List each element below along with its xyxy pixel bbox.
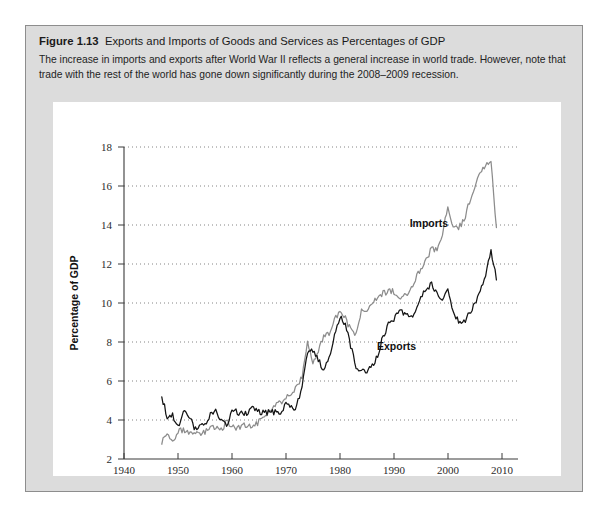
line-chart: 18 16 14 12 10 8 6 4 2 Percentage of GDP (53, 102, 561, 476)
series-label-imports: Imports (410, 217, 449, 229)
x-tick-label-1990: 1990 (383, 464, 406, 476)
y-tick-label-8: 8 (107, 336, 113, 348)
plot-card: 18 16 14 12 10 8 6 4 2 Percentage of GDP (53, 102, 561, 476)
figure-panel: Figure 1.13 Exports and Imports of Goods… (25, 25, 583, 492)
x-tick-label-1970: 1970 (275, 464, 298, 476)
x-tick-label-1960: 1960 (221, 464, 244, 476)
caption-block: Figure 1.13 Exports and Imports of Goods… (39, 34, 573, 82)
y-tick-label-6: 6 (107, 375, 113, 387)
series-label-exports: Exports (377, 340, 416, 352)
x-tick-label-1980: 1980 (329, 464, 352, 476)
y-tick-label-4: 4 (107, 414, 113, 426)
series-line-exports (162, 250, 497, 430)
y-tick-label-2: 2 (107, 453, 113, 465)
figure-caption: The increase in imports and exports afte… (39, 53, 569, 82)
x-tick-label-2010: 2010 (491, 464, 514, 476)
y-tick-label-18: 18 (101, 141, 113, 153)
y-axis: 18 16 14 12 10 8 6 4 2 Percentage of GDP (68, 141, 124, 465)
y-axis-title: Percentage of GDP (68, 255, 80, 350)
y-tick-label-12: 12 (101, 258, 112, 270)
grid-lines (124, 147, 518, 420)
figure-title-text: Exports and Imports of Goods and Service… (105, 35, 445, 47)
series-line-imports (162, 161, 497, 444)
x-tick-label-2000: 2000 (437, 464, 460, 476)
figure-title: Figure 1.13 Exports and Imports of Goods… (39, 34, 573, 49)
y-tick-label-14: 14 (101, 219, 113, 231)
figure-number: Figure 1.13 (39, 35, 99, 47)
y-tick-label-16: 16 (101, 180, 113, 192)
x-tick-label-1940: 1940 (113, 464, 136, 476)
x-axis-title: Year (310, 466, 332, 478)
x-tick-label-1950: 1950 (167, 464, 190, 476)
y-tick-label-10: 10 (101, 297, 113, 309)
